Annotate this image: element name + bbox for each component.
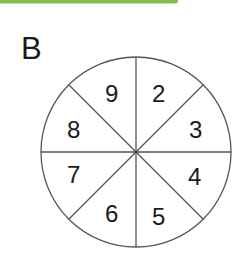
section-number-6: 6 <box>105 200 118 227</box>
section-number-8: 8 <box>67 116 80 143</box>
section-number-7: 7 <box>67 161 80 188</box>
section-number-3: 3 <box>189 116 202 143</box>
section-number-9: 9 <box>105 80 118 107</box>
spinner-center <box>134 150 138 154</box>
spinner-diagram: 2 3 4 5 6 7 8 9 <box>0 0 238 267</box>
section-number-4: 4 <box>188 163 201 190</box>
section-number-5: 5 <box>152 203 165 230</box>
section-number-2: 2 <box>152 80 165 107</box>
